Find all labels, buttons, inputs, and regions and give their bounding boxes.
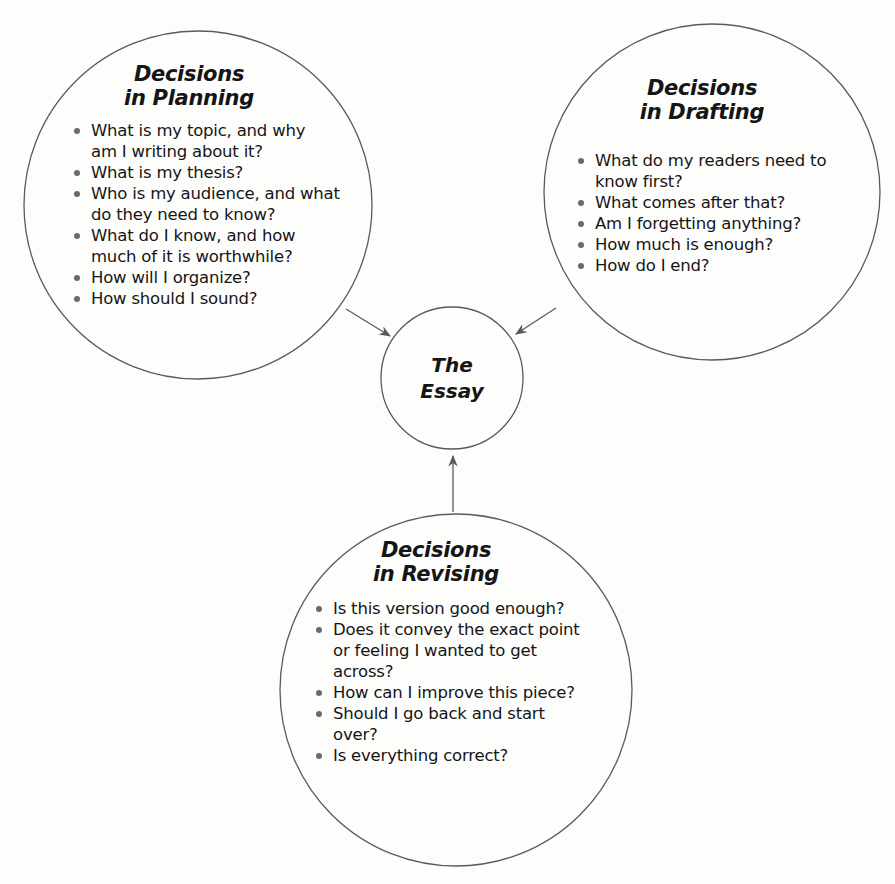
planning-title-line2: in Planning	[70, 86, 308, 110]
list-item: What do my readers need to know first?	[574, 150, 863, 192]
revising-title-line1: Decisions	[312, 538, 560, 562]
list-item: What is my topic, and why am I writing a…	[70, 120, 316, 162]
essay-node: The Essay	[382, 352, 522, 404]
essay-title-line2: Essay	[382, 378, 522, 404]
planning-to-essay-arrow	[346, 309, 390, 336]
list-item: What is my thesis?	[70, 162, 350, 183]
drafting-title-line2: in Drafting	[574, 100, 830, 124]
planning-title-line1: Decisions	[70, 62, 308, 86]
drafting-title: Decisions in Drafting	[574, 76, 830, 124]
drafting-question-list: What do my readers need to know first? W…	[574, 150, 864, 276]
revising-node: Decisions in Revising Is this version go…	[312, 538, 612, 766]
revising-title: Decisions in Revising	[312, 538, 560, 586]
list-item: How do I end?	[574, 255, 864, 276]
drafting-node: Decisions in Drafting What do my readers…	[574, 76, 874, 276]
planning-title: Decisions in Planning	[70, 62, 308, 110]
list-item: How can I improve this piece?	[312, 682, 612, 703]
list-item: What do I know, and how much of it is wo…	[70, 225, 326, 267]
list-item: Should I go back and start over?	[312, 703, 558, 745]
list-item: What comes after that?	[574, 192, 864, 213]
essay-decisions-diagram: Decisions in Planning What is my topic, …	[0, 0, 895, 884]
drafting-to-essay-arrow	[516, 308, 556, 334]
list-item: Is this version good enough?	[312, 598, 612, 619]
list-item: How much is enough?	[574, 234, 864, 255]
drafting-title-line1: Decisions	[574, 76, 830, 100]
list-item: Does it convey the exact point or feelin…	[312, 619, 581, 682]
essay-title: The Essay	[382, 352, 522, 404]
list-item: Is everything correct?	[312, 745, 612, 766]
list-item: How will I organize?	[70, 267, 350, 288]
essay-title-line1: The	[382, 352, 522, 378]
revising-question-list: Is this version good enough? Does it con…	[312, 598, 612, 766]
list-item: Who is my audience, and what do they nee…	[70, 183, 351, 225]
planning-question-list: What is my topic, and why am I writing a…	[70, 120, 350, 309]
list-item: How should I sound?	[70, 288, 350, 309]
planning-node: Decisions in Planning What is my topic, …	[70, 62, 370, 309]
list-item: Am I forgetting anything?	[574, 213, 864, 234]
revising-title-line2: in Revising	[312, 562, 560, 586]
